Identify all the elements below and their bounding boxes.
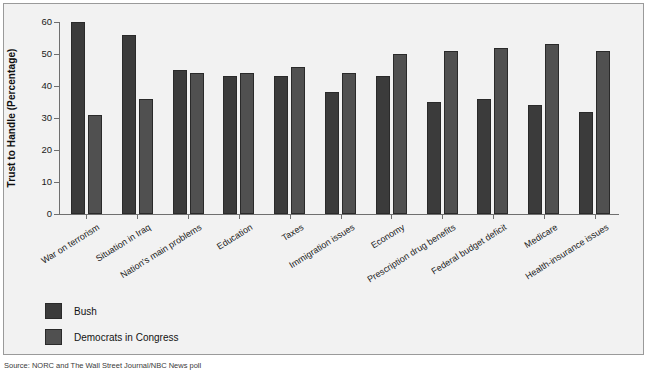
y-axis-tick-label: 20 bbox=[41, 144, 52, 155]
bar-group bbox=[71, 22, 102, 214]
chart-figure: Trust to Handle (Percentage) 01020304050… bbox=[0, 0, 650, 370]
y-axis-tick-label: 0 bbox=[47, 208, 52, 219]
bar bbox=[71, 22, 85, 214]
y-axis-tick-label: 10 bbox=[41, 176, 52, 187]
x-axis-tick-mark bbox=[86, 215, 87, 219]
chart-legend: Bush Democrats in Congress bbox=[45, 300, 178, 352]
bar-group bbox=[528, 22, 559, 214]
bar-group bbox=[223, 22, 254, 214]
legend-swatch-democrats bbox=[45, 329, 62, 345]
y-axis-title: Trust to Handle (Percentage) bbox=[4, 22, 18, 214]
bar bbox=[427, 102, 441, 214]
bar bbox=[342, 73, 356, 214]
bar-group bbox=[325, 22, 356, 214]
y-axis-title-text: Trust to Handle (Percentage) bbox=[6, 49, 17, 188]
x-axis-tick-mark bbox=[137, 215, 138, 219]
bar bbox=[579, 112, 593, 214]
y-axis-tick-mark bbox=[54, 214, 59, 215]
bar bbox=[88, 115, 102, 214]
legend-label-democrats: Democrats in Congress bbox=[74, 332, 178, 343]
x-axis-tick-mark bbox=[595, 215, 596, 219]
bar bbox=[291, 67, 305, 214]
y-axis-tick-mark bbox=[54, 86, 59, 87]
x-axis-line bbox=[59, 214, 619, 215]
x-axis-tick-mark bbox=[239, 215, 240, 219]
y-axis-tick-mark bbox=[54, 118, 59, 119]
y-axis-tick-mark bbox=[54, 150, 59, 151]
bar bbox=[596, 51, 610, 214]
source-note: Source: NORC and The Wall Street Journal… bbox=[4, 361, 644, 370]
y-axis-tick-mark bbox=[54, 54, 59, 55]
bar-group bbox=[579, 22, 610, 214]
legend-swatch-bush bbox=[45, 303, 62, 319]
y-axis-tick-label: 50 bbox=[41, 48, 52, 59]
plot-area: 0102030405060 bbox=[59, 22, 618, 214]
legend-item-democrats: Democrats in Congress bbox=[45, 326, 178, 348]
bar-group bbox=[173, 22, 204, 214]
bar bbox=[122, 35, 136, 214]
legend-item-bush: Bush bbox=[45, 300, 178, 322]
y-axis-tick-mark bbox=[54, 182, 59, 183]
x-axis-tick-mark bbox=[493, 215, 494, 219]
bar bbox=[376, 76, 390, 214]
bar bbox=[325, 92, 339, 214]
x-axis-tick-mark bbox=[341, 215, 342, 219]
bar bbox=[274, 76, 288, 214]
y-axis-tick-label: 60 bbox=[41, 16, 52, 27]
x-axis-tick-mark bbox=[442, 215, 443, 219]
bar bbox=[173, 70, 187, 214]
bar bbox=[477, 99, 491, 214]
bar-group bbox=[274, 22, 305, 214]
x-axis-tick-mark bbox=[544, 215, 545, 219]
bar-group bbox=[427, 22, 458, 214]
y-axis-tick-label: 30 bbox=[41, 112, 52, 123]
bar bbox=[444, 51, 458, 214]
bar bbox=[223, 76, 237, 214]
x-axis-tick-mark bbox=[290, 215, 291, 219]
x-axis-tick-mark bbox=[391, 215, 392, 219]
bar-group bbox=[376, 22, 407, 214]
y-axis-tick-label: 40 bbox=[41, 80, 52, 91]
bar-group bbox=[477, 22, 508, 214]
x-axis-tick-mark bbox=[188, 215, 189, 219]
bar-group bbox=[122, 22, 153, 214]
legend-label-bush: Bush bbox=[74, 306, 97, 317]
y-axis-tick-mark bbox=[54, 22, 59, 23]
